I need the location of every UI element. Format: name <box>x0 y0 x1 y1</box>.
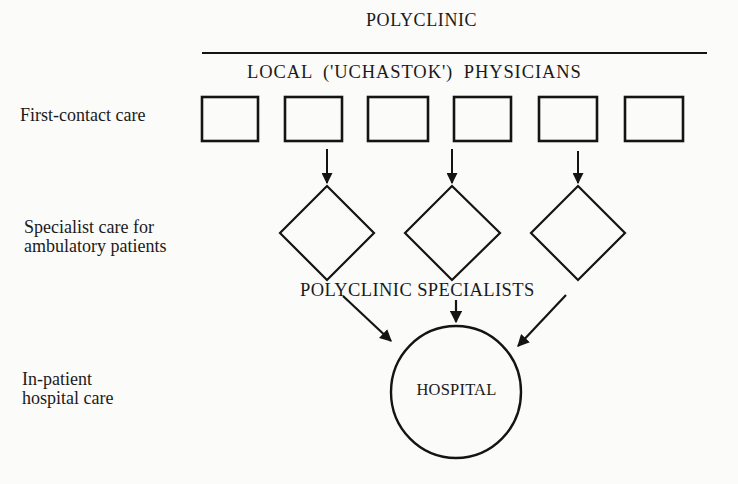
arrow-diagonal-icon <box>518 295 566 346</box>
physician-box-4 <box>454 97 511 141</box>
physician-box-6 <box>625 97 683 141</box>
specialist-diamonds <box>280 186 625 280</box>
specialists-group-label: POLYCLINIC SPECIALISTS <box>300 281 535 300</box>
level-label-inpatient: In-patient hospital care <box>22 370 113 408</box>
specialist-diamond-2 <box>405 186 500 280</box>
arrow-diagonal-icon <box>343 296 391 341</box>
specialist-diamond-1 <box>280 186 374 280</box>
level-label-line: hospital care <box>22 389 113 408</box>
level-label-line: First-contact care <box>20 106 145 125</box>
referral-arrows-to-specialists <box>327 149 578 183</box>
level-label-line: In-patient <box>22 370 113 389</box>
level-label-specialist: Specialist care for ambulatory patients <box>24 218 166 256</box>
hospital-label: HOSPITAL <box>391 381 522 398</box>
specialist-diamond-3 <box>531 186 625 280</box>
diagram-title: POLYCLINIC <box>366 11 477 30</box>
physicians-heading: LOCAL ('UCHASTOK') PHYSICIANS <box>247 63 582 82</box>
level-label-line: ambulatory patients <box>24 237 166 256</box>
physician-boxes <box>202 97 683 141</box>
physician-box-3 <box>368 97 428 141</box>
physician-box-1 <box>202 97 258 141</box>
level-label-first-contact: First-contact care <box>20 106 145 125</box>
referral-arrows-to-hospital <box>343 295 566 346</box>
polyclinic-referral-diagram: POLYCLINIC LOCAL ('UCHASTOK') PHYSICIANS… <box>0 0 738 484</box>
level-label-line: Specialist care for <box>24 218 166 237</box>
physician-box-2 <box>285 97 342 141</box>
physician-box-5 <box>539 97 597 141</box>
